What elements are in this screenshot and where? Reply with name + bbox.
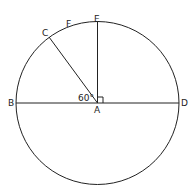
point-a-label: A (94, 105, 101, 115)
right-angle-marker (98, 97, 104, 103)
point-f-label: F (66, 19, 71, 29)
point-d-label: D (181, 98, 188, 108)
angle-label: 60° (78, 93, 94, 103)
point-b-label: B (8, 98, 14, 108)
circle-diagram: 60° A B C D E F (0, 0, 194, 187)
point-c-label: C (42, 28, 48, 38)
point-e-label: E (94, 14, 100, 24)
